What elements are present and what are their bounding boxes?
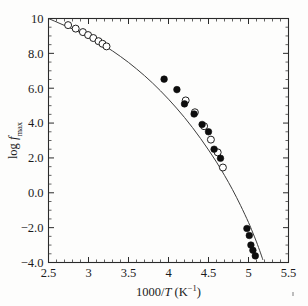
data-point	[191, 111, 198, 118]
y-tick-label: −4.0	[21, 256, 44, 270]
x-tick-label: 4	[165, 266, 172, 280]
y-tick-label: 10	[31, 12, 44, 26]
data-point	[207, 136, 214, 143]
data-point	[103, 43, 110, 50]
x-tick-label: 3	[85, 266, 91, 280]
data-point	[219, 164, 226, 171]
y-tick-label: 2.0	[28, 151, 44, 165]
data-point	[199, 121, 206, 128]
y-tick-label: 4.0	[28, 116, 44, 130]
data-point	[65, 22, 72, 29]
y-tick-label: 6.0	[28, 82, 44, 96]
arrhenius-scatter-chart: 2.533.544.555.5 −4.0−2.00.02.04.06.08.01…	[0, 0, 308, 306]
data-point	[246, 232, 253, 239]
data-point	[181, 101, 188, 108]
x-tick-label: 5.5	[281, 266, 297, 280]
data-point	[211, 146, 218, 153]
x-tick-label: 3.5	[121, 266, 137, 280]
data-point	[244, 225, 251, 232]
x-tick-label: 4.5	[201, 266, 217, 280]
scan-artifact-speck	[292, 292, 294, 296]
y-tick-label: 8.0	[28, 47, 44, 61]
y-tick-label: −2.0	[21, 221, 44, 235]
x-tick-label: 5	[245, 266, 251, 280]
data-point	[252, 253, 259, 260]
data-point	[161, 76, 168, 83]
data-point	[72, 25, 79, 32]
figure-root: 2.533.544.555.5 −4.0−2.00.02.04.06.08.01…	[0, 0, 308, 306]
chart-background	[0, 0, 308, 306]
y-tick-label: 0.0	[28, 186, 44, 200]
data-point	[174, 86, 181, 93]
data-point	[205, 128, 212, 135]
data-point	[217, 155, 224, 162]
